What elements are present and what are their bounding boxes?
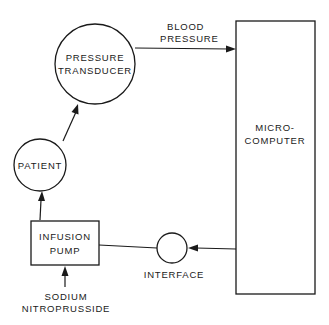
pressure-transducer-circle — [55, 24, 135, 104]
sodium-nitroprusside-input: SODIUM NITROPRUSSIDE — [22, 266, 111, 314]
interface-label: INTERFACE — [144, 269, 205, 280]
pump-to-patient-line — [40, 200, 41, 220]
infusion-pump-box — [31, 221, 99, 265]
interface-node: INTERFACE — [144, 233, 205, 280]
patient-to-transducer-arrow — [63, 104, 79, 141]
input-label-line2: NITROPRUSSIDE — [22, 303, 111, 314]
arrowhead-icon — [188, 245, 198, 252]
pressure-transducer-label-line2: TRANSDUCER — [58, 65, 132, 76]
pump-to-patient-arrow — [38, 191, 45, 220]
computer-to-interface-arrow — [188, 245, 236, 252]
microcomputer-label-line2: COMPUTER — [245, 135, 306, 146]
computer-to-interface-line — [196, 248, 236, 249]
arrowhead-icon — [72, 104, 79, 115]
arrowhead-icon — [62, 266, 69, 276]
control-loop-diagram: PRESSURE TRANSDUCER BLOOD PRESSURE MICRO… — [0, 0, 329, 325]
patient-to-transducer-line — [63, 112, 76, 141]
pressure-transducer-node: PRESSURE TRANSDUCER — [55, 24, 135, 104]
interface-circle — [157, 233, 187, 263]
microcomputer-node: MICRO- COMPUTER — [236, 21, 315, 294]
microcomputer-label-line1: MICRO- — [255, 122, 295, 133]
input-label-line1: SODIUM — [45, 291, 88, 302]
infusion-pump-label-line2: PUMP — [50, 245, 81, 256]
pressure-transducer-label-line1: PRESSURE — [66, 52, 125, 63]
blood-pressure-arrow: BLOOD PRESSURE — [135, 21, 236, 53]
blood-pressure-label-line1: BLOOD — [167, 21, 204, 32]
infusion-pump-node: INFUSION PUMP — [31, 221, 99, 265]
patient-node: PATIENT — [14, 139, 66, 191]
microcomputer-box — [236, 21, 315, 294]
patient-label: PATIENT — [18, 160, 62, 171]
infusion-pump-label-line1: INFUSION — [39, 231, 91, 242]
arrowhead-icon — [226, 46, 236, 53]
blood-pressure-line — [135, 48, 230, 49]
interface-to-pump-line — [99, 245, 157, 248]
arrowhead-icon — [38, 191, 45, 201]
blood-pressure-label-line2: PRESSURE — [160, 33, 219, 44]
